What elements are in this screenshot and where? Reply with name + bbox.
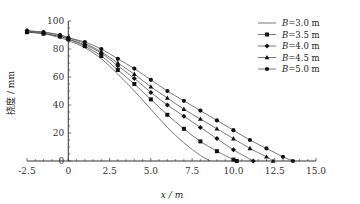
legend-label: B=5.0 m xyxy=(281,64,320,74)
circle-marker xyxy=(248,138,252,142)
triangle-marker xyxy=(198,116,203,120)
x-tick-label: 2.5 xyxy=(102,166,117,176)
x-tick-label: 5.0 xyxy=(144,166,159,176)
triangle-marker xyxy=(264,154,269,158)
y-tick-label: 60 xyxy=(53,72,65,82)
legend-label: B=3.5 m xyxy=(281,30,320,40)
square-marker xyxy=(235,159,239,163)
y-tick-label: 80 xyxy=(53,44,65,54)
x-tick-label: 0 xyxy=(65,166,71,176)
deflection-chart: -2.502.55.07.510.012.515.0020406080100 B… xyxy=(0,0,360,204)
x-tick-label: 12.5 xyxy=(265,166,285,176)
legend-label: B=4.5 m xyxy=(281,53,320,63)
x-tick-label: 10.0 xyxy=(223,166,243,176)
triangle-marker xyxy=(115,60,120,64)
x-axis-label: x / m xyxy=(161,190,183,200)
circle-marker xyxy=(165,89,169,93)
legend-item: B=3.0 m xyxy=(258,18,320,28)
square-marker xyxy=(182,127,186,131)
triangle-marker xyxy=(132,72,137,76)
y-tick-label: 100 xyxy=(47,16,64,26)
legend-item: B=5.0 m xyxy=(258,64,320,74)
diamond-marker xyxy=(181,114,186,119)
circle-marker xyxy=(83,40,87,44)
circle-marker xyxy=(116,57,120,61)
legend-item: B=4.0 m xyxy=(258,41,320,51)
square-marker xyxy=(149,97,153,101)
circle-marker xyxy=(66,36,70,40)
circle-marker xyxy=(25,29,29,33)
circle-marker xyxy=(265,67,269,71)
series-b-5-0-m xyxy=(25,29,295,163)
circle-marker xyxy=(41,30,45,34)
y-tick-label: 0 xyxy=(59,156,65,166)
diamond-marker xyxy=(231,147,236,152)
circle-marker xyxy=(264,146,268,150)
triangle-marker xyxy=(231,136,236,140)
triangle-marker xyxy=(215,126,220,130)
circle-marker xyxy=(149,78,153,82)
axes: -2.502.55.07.510.012.515.0020406080100 xyxy=(18,16,326,176)
circle-marker xyxy=(99,47,103,51)
square-marker xyxy=(198,139,202,143)
diamond-marker xyxy=(198,125,203,130)
diamond-marker xyxy=(251,159,256,164)
square-marker xyxy=(165,113,169,117)
x-tick-label: 7.5 xyxy=(185,166,200,176)
square-marker xyxy=(116,68,120,72)
x-tick-label: 15.0 xyxy=(306,166,326,176)
circle-marker xyxy=(58,33,62,37)
legend-item: B=4.5 m xyxy=(258,53,320,63)
circle-marker xyxy=(231,128,235,132)
square-marker xyxy=(132,82,136,86)
y-tick-label: 20 xyxy=(53,128,65,138)
circle-marker xyxy=(182,99,186,103)
triangle-marker xyxy=(148,84,153,88)
legend-label: B=4.0 m xyxy=(281,41,320,51)
square-marker xyxy=(215,149,219,153)
x-tick-label: -2.5 xyxy=(18,166,36,176)
circle-marker xyxy=(132,67,136,71)
circle-marker xyxy=(291,159,295,163)
circle-marker xyxy=(198,109,202,113)
circle-marker xyxy=(215,118,219,122)
triangle-marker xyxy=(181,107,186,111)
circle-marker xyxy=(281,155,285,159)
legend-label: B=3.0 m xyxy=(281,18,320,28)
diamond-marker xyxy=(265,44,270,49)
legend-item: B=3.5 m xyxy=(258,30,320,40)
y-tick-label: 40 xyxy=(53,100,65,110)
series-line xyxy=(27,31,293,161)
triangle-marker xyxy=(165,95,170,99)
legend: B=3.0 mB=3.5 mB=4.0 mB=4.5 mB=5.0 m xyxy=(258,18,320,74)
triangle-marker xyxy=(248,146,253,150)
plot-area xyxy=(25,28,295,163)
y-axis-label: 挠度 / mm xyxy=(5,71,16,115)
diamond-marker xyxy=(214,136,219,141)
square-marker xyxy=(265,33,269,37)
